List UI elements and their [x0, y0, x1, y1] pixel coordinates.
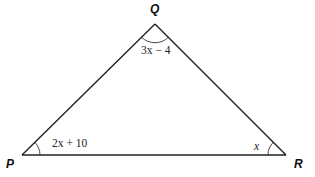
side-pq	[22, 24, 155, 155]
angle-label-p: 2x + 10	[52, 137, 87, 149]
angle-arc-q	[142, 37, 169, 43]
vertex-label-p: P	[6, 157, 15, 171]
triangle-diagram: Q P R 3x − 4 2x + 10 x	[0, 0, 315, 177]
vertex-label-r: R	[294, 157, 303, 171]
angle-arc-r	[268, 142, 273, 155]
side-qr	[155, 24, 286, 155]
angle-arc-p	[35, 142, 40, 155]
angle-label-r: x	[253, 140, 260, 152]
angle-label-q: 3x − 4	[141, 44, 171, 56]
vertex-label-q: Q	[150, 2, 160, 16]
